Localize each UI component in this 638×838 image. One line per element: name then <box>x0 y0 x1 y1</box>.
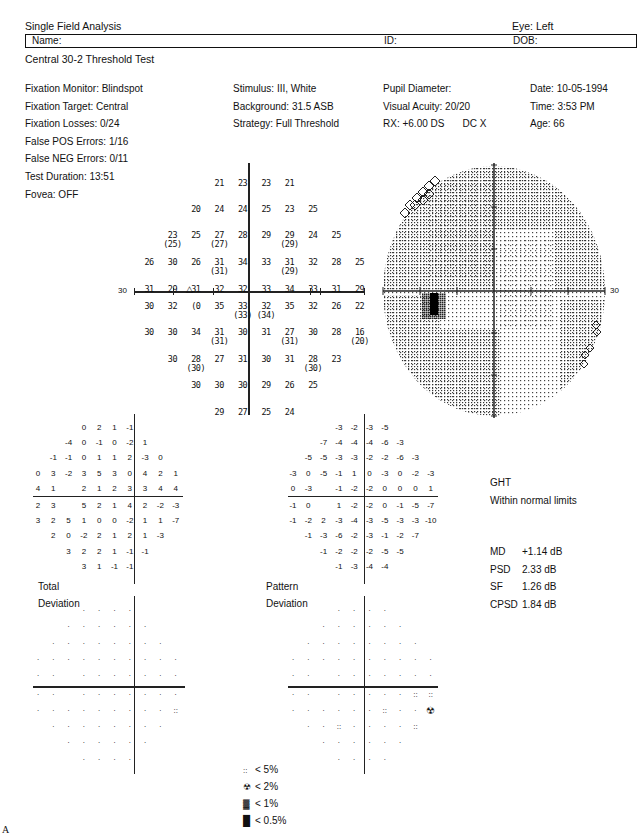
normal-dot: · <box>346 671 362 680</box>
normal-dot: · <box>316 706 332 715</box>
deviation-cell: -4 <box>377 562 393 571</box>
deviation-cell: -1 <box>137 547 153 556</box>
normal-dot: · <box>392 690 408 699</box>
deviation-cell: -3 <box>137 453 153 462</box>
normal-dot: · <box>76 722 92 731</box>
deviation-cell: 1 <box>137 516 153 525</box>
deviation-cell: 0 <box>76 453 92 462</box>
p2-symbol: ☢ <box>423 706 439 715</box>
deviation-cell: -1 <box>61 453 77 462</box>
deviation-cell: -5 <box>392 547 408 556</box>
normal-dot: · <box>45 706 61 715</box>
deviation-cell: -2 <box>346 484 362 493</box>
deviation-cell: 3 <box>76 469 92 478</box>
normal-dot: · <box>346 655 362 664</box>
normal-dot: · <box>45 639 61 648</box>
global-indices: MD+1.14 dB PSD2.33 dB SF1.26 dB CPSD1.84… <box>490 543 562 613</box>
normal-dot: · <box>392 639 408 648</box>
pdp-horizontal-axis <box>288 686 438 688</box>
normal-dot: · <box>137 622 153 631</box>
deviation-cell: -2 <box>300 516 316 525</box>
deviation-cell: -3 <box>346 562 362 571</box>
deviation-cell: 2 <box>30 501 46 510</box>
deviation-cell: 0 <box>362 469 378 478</box>
deviation-cell: 1 <box>137 438 153 447</box>
deviation-cell: 2 <box>45 516 61 525</box>
normal-dot: · <box>300 671 316 680</box>
normal-dot: · <box>30 706 46 715</box>
normal-dot: · <box>346 622 362 631</box>
sf-value: 1.26 dB <box>522 581 556 592</box>
normal-dot: · <box>76 690 92 699</box>
normal-dot: · <box>61 655 77 664</box>
legend-5pct: ::< 5% <box>243 764 278 777</box>
pattern-deviation-title: Pattern Deviation <box>266 578 308 612</box>
deviation-cell: 0 <box>76 423 92 432</box>
p5-symbol: :: <box>168 706 184 715</box>
normal-dot: · <box>30 655 46 664</box>
deviation-cell: 1 <box>168 469 184 478</box>
normal-dot: · <box>122 639 138 648</box>
normal-dot: · <box>331 690 347 699</box>
normal-dot: · <box>346 639 362 648</box>
ght-value: Within normal limits <box>490 495 577 506</box>
deviation-cell: -1 <box>122 423 138 432</box>
normal-dot: · <box>30 671 46 680</box>
normal-dot: · <box>137 639 153 648</box>
normal-dot: · <box>300 639 316 648</box>
deviation-cell: -3 <box>152 531 168 540</box>
deviation-cell: -3 <box>331 516 347 525</box>
deviation-cell: -2 <box>362 547 378 556</box>
normal-dot: · <box>137 655 153 664</box>
deviation-cell: -2 <box>392 531 408 540</box>
normal-dot: · <box>122 655 138 664</box>
cpsd-value: 1.84 dB <box>522 599 556 610</box>
normal-dot: · <box>316 722 332 731</box>
normal-dot: · <box>407 655 423 664</box>
normal-dot: · <box>346 706 362 715</box>
deviation-cell: 1 <box>45 484 61 493</box>
deviation-cell: 3 <box>76 562 92 571</box>
deviation-cell: -1 <box>285 516 301 525</box>
normal-dot: · <box>91 738 107 747</box>
deviation-cell: -6 <box>392 453 408 462</box>
deviation-cell: 1 <box>91 453 107 462</box>
normal-dot: · <box>61 639 77 648</box>
normal-dot: · <box>168 690 184 699</box>
deviation-cell: -1 <box>300 531 316 540</box>
sf-label: SF <box>490 578 522 596</box>
normal-dot: · <box>122 671 138 680</box>
normal-dot: · <box>91 606 107 615</box>
normal-dot: · <box>331 639 347 648</box>
normal-dot: · <box>392 622 408 631</box>
deviation-cell: -5 <box>300 453 316 462</box>
deviation-cell: -2 <box>152 501 168 510</box>
normal-dot: · <box>122 606 138 615</box>
td-horizontal-axis <box>33 496 183 497</box>
deviation-cell: -3 <box>346 453 362 462</box>
deviation-cell: -2 <box>346 531 362 540</box>
deviation-cell: -2 <box>346 547 362 556</box>
deviation-cell: 0 <box>122 469 138 478</box>
normal-dot: · <box>392 738 408 747</box>
normal-dot: · <box>61 706 77 715</box>
deviation-cell: 0 <box>300 501 316 510</box>
normal-dot: · <box>107 655 123 664</box>
normal-dot: · <box>152 671 168 680</box>
deviation-cell: 3 <box>45 501 61 510</box>
deviation-cell: 2 <box>91 501 107 510</box>
deviation-cell: 2 <box>122 453 138 462</box>
ght-label: GHT <box>490 477 511 488</box>
deviation-cell: 0 <box>61 531 77 540</box>
deviation-cell: -5 <box>316 469 332 478</box>
deviation-cell: -10 <box>423 516 439 525</box>
normal-dot: · <box>362 755 378 764</box>
normal-dot: · <box>76 738 92 747</box>
normal-dot: · <box>377 622 393 631</box>
deviation-cell: 2 <box>45 531 61 540</box>
deviation-cell: 0 <box>107 438 123 447</box>
normal-dot: · <box>331 755 347 764</box>
normal-dot: · <box>346 690 362 699</box>
deviation-cell: 5 <box>61 516 77 525</box>
normal-dot: · <box>30 690 46 699</box>
